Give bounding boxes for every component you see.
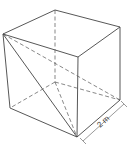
top-face: [3, 10, 120, 57]
space-diagonal: [3, 34, 77, 137]
edge-length-label: 2 m: [95, 114, 111, 130]
cube-figure: 2 m: [0, 0, 130, 153]
cube-diagram: 2 m: [0, 0, 130, 153]
